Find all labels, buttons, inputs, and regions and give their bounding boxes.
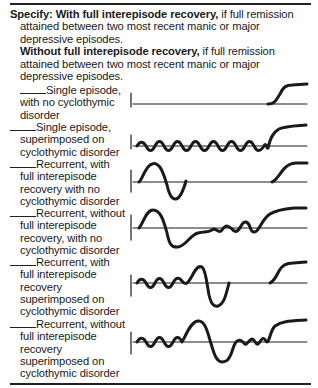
- with-recovery-def-3: depressive episodes.: [10, 33, 310, 45]
- checkbox-blank[interactable]: [10, 207, 36, 217]
- without-recovery-def-3: depressive episodes.: [10, 70, 310, 82]
- specifier-without-recovery-line-1: Without full interepisode recovery, if f…: [10, 45, 310, 57]
- specify-label: Specify:: [10, 8, 53, 20]
- graph-recurrent-full-recovery-cyclothymic: [131, 262, 307, 306]
- without-recovery-term: Without full interepisode recovery,: [20, 45, 200, 57]
- course-label-recurrent-full-cyclothymic: Recurrent, with full interepisode recove…: [10, 256, 119, 317]
- checkbox-blank[interactable]: [10, 158, 36, 168]
- without-recovery-def-2: attained between two most recent manic o…: [10, 58, 310, 70]
- checkbox-blank[interactable]: [10, 256, 36, 266]
- specifier-block: Specify: With full interepisode recovery…: [10, 8, 310, 82]
- checkbox-blank[interactable]: [20, 84, 46, 94]
- course-label-recurrent-without-no-cyclothymic: Recurrent, without full interepisode rec…: [10, 207, 125, 256]
- bottom-rule: [10, 383, 311, 385]
- specifier-with-recovery-line-1: Specify: With full interepisode recovery…: [10, 8, 310, 20]
- graph-single-episode-cyclothymic: [131, 125, 307, 151]
- course-label-recurrent-without-cyclothymic: Recurrent, without full interepisode rec…: [10, 318, 125, 379]
- with-recovery-def-1: if full remission: [218, 8, 293, 20]
- without-recovery-def-1: if full remission: [200, 45, 275, 57]
- graph-recurrent-no-full-recovery-cyclothymic: [131, 320, 307, 362]
- graph-recurrent-no-full-recovery-no-cyclothymic: [131, 208, 307, 247]
- checkbox-blank[interactable]: [10, 121, 36, 131]
- with-recovery-term: With full interepisode recovery,: [56, 8, 218, 20]
- graph-recurrent-full-recovery-no-cyclothymic: [131, 163, 307, 199]
- checkbox-blank[interactable]: [10, 318, 36, 328]
- top-rule: [10, 3, 311, 5]
- course-label-recurrent-full-no-cyclothymic: Recurrent, with full interepisode recove…: [10, 158, 119, 207]
- course-label-single-no-cyclothymic: Single episode, with no cyclothymic diso…: [20, 84, 121, 121]
- graph-single-episode-no-cyclothymic: [131, 84, 307, 107]
- with-recovery-def-2: attained between two most recent manic o…: [10, 20, 310, 32]
- course-label-single-cyclothymic: Single episode, superimposed on cyclothy…: [10, 121, 119, 158]
